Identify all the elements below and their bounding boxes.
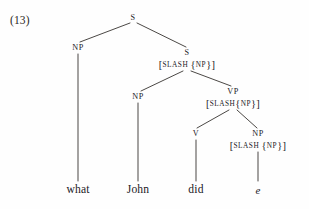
feature-np-trace: [SLASH {NP}] <box>230 141 286 152</box>
terminal-empty-category: e <box>255 185 260 196</box>
terminal-john: John <box>127 184 150 196</box>
node-s-slash: S <box>185 49 190 57</box>
branch-root-to-s-slash <box>137 23 186 47</box>
branch-root-to-np-wh <box>80 23 130 42</box>
terminal-what: what <box>66 184 89 196</box>
figure-canvas: (13) S NP S [SLASH {NP}] <box>0 0 309 209</box>
feature-s-slash: [SLASH {NP}] <box>159 60 215 71</box>
branch-vp-to-v <box>197 110 229 128</box>
tree-branches <box>0 0 309 209</box>
node-vp-slash: VP <box>227 88 238 96</box>
branch-vp-to-np-trace <box>237 110 257 128</box>
branch-s-slash-to-vp <box>191 71 231 86</box>
feature-vp-slash: [SLASH{NP}] <box>206 99 260 110</box>
node-np-trace: NP <box>252 130 263 138</box>
node-np-wh: NP <box>72 44 83 52</box>
node-np-subj: NP <box>132 93 143 101</box>
node-root-s: S <box>131 14 136 22</box>
node-v: V <box>193 130 199 138</box>
terminal-did: did <box>188 184 203 196</box>
branch-s-slash-to-np-subj <box>141 71 183 91</box>
